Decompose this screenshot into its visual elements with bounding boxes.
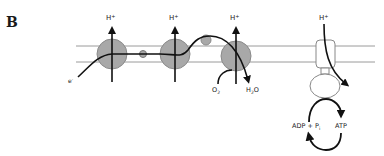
proton-label-complex-i: H+	[106, 13, 115, 22]
adp-pi-label: ADP + Pi	[292, 122, 320, 131]
atp-label: ATP	[335, 122, 347, 130]
water-label: H2O	[246, 86, 259, 95]
electron-label: e-	[68, 77, 74, 84]
atp-synthase-proton-label: H+	[319, 13, 328, 22]
panel-label: B	[6, 14, 18, 30]
atp-synthase-f1-subunit	[310, 74, 340, 98]
diagram-canvas: H+ H+ H+ e- O2 H2O H+ ADP + Pi ATP	[0, 0, 384, 156]
atp-synthesis-arrow	[309, 99, 341, 122]
oxygen-reduction-arrow	[218, 70, 232, 84]
atp-synthase	[310, 40, 340, 98]
proton-label-complex-iii: H+	[169, 13, 178, 22]
proton-label-complex-iv: H+	[230, 13, 239, 22]
atp-hydrolysis-arrow	[309, 133, 341, 150]
electron-transport-chain-diagram: B H+ H+	[0, 0, 384, 156]
oxygen-label: O2	[212, 86, 220, 95]
atp-synthase-stalk	[321, 68, 329, 74]
